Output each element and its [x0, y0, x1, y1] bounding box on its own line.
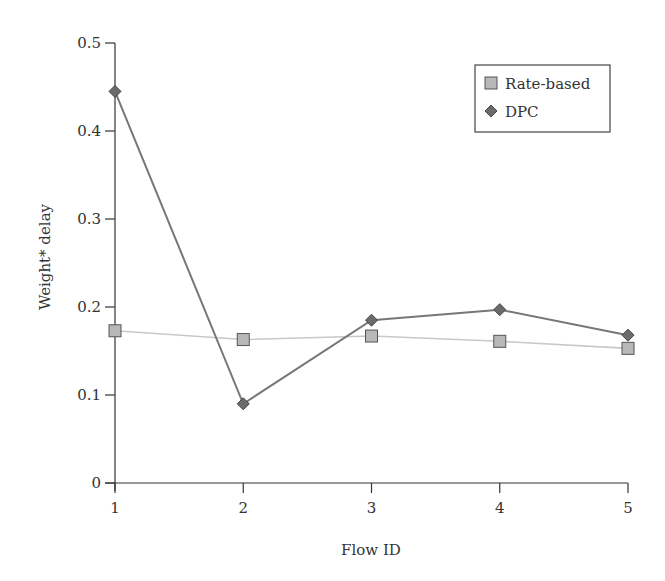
x-tick-label: 5	[623, 499, 633, 517]
line-chart: 00.10.20.30.40.512345 Rate-basedDPC Flow…	[0, 0, 665, 581]
y-tick-label: 0.3	[77, 210, 101, 228]
x-tick-label: 1	[110, 499, 120, 517]
diamond-marker	[109, 85, 121, 97]
y-tick-label: 0.2	[77, 298, 101, 316]
square-marker	[622, 342, 634, 354]
series-layer	[109, 85, 634, 409]
legend: Rate-basedDPC	[475, 65, 610, 132]
diamond-marker	[622, 329, 634, 341]
x-tick-label: 3	[367, 499, 377, 517]
y-tick-label: 0.5	[77, 34, 101, 52]
y-tick-label: 0.1	[77, 386, 101, 404]
square-marker	[494, 335, 506, 347]
x-tick-label: 2	[238, 499, 248, 517]
diamond-marker	[366, 314, 378, 326]
diamond-marker	[237, 398, 249, 410]
legend-label: DPC	[505, 103, 539, 121]
square-marker	[237, 334, 249, 346]
x-axis-title: Flow ID	[341, 541, 401, 559]
diamond-marker	[494, 304, 506, 316]
legend-label: Rate-based	[505, 75, 591, 93]
square-marker	[109, 325, 121, 337]
series-line-dpc	[115, 91, 628, 403]
y-tick-label: 0.4	[77, 122, 101, 140]
y-axis-title: Weight* delay	[36, 203, 54, 310]
square-marker	[366, 330, 378, 342]
x-tick-label: 4	[495, 499, 505, 517]
y-tick-label: 0	[91, 474, 101, 492]
legend-square-icon	[485, 77, 497, 89]
